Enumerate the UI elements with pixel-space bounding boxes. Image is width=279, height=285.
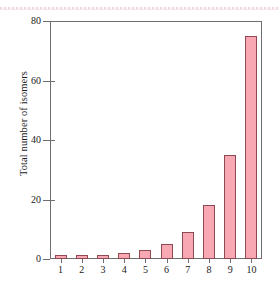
x-axis-tick-mark — [145, 259, 146, 263]
y-axis-tick-mark — [43, 21, 50, 22]
y-axis-tick-mark — [43, 81, 50, 82]
y-axis-tick-mark-inner — [50, 200, 55, 201]
bar — [182, 232, 194, 259]
y-axis-label: Total number of isomers — [0, 0, 24, 250]
bar — [161, 244, 173, 259]
x-axis-tick-mark — [82, 259, 83, 263]
x-axis-tick-mark — [167, 259, 168, 263]
y-axis-tick-label: 40 — [0, 135, 41, 145]
y-axis-tick-mark — [43, 259, 50, 260]
bar — [203, 205, 215, 259]
x-axis-tick-mark — [61, 259, 62, 263]
bar — [97, 255, 109, 259]
bar — [55, 255, 67, 259]
x-axis-tick-mark — [124, 259, 125, 263]
y-axis-tick-mark-inner — [50, 81, 55, 82]
bar — [118, 253, 130, 259]
x-axis-tick-mark — [230, 259, 231, 263]
isomer-bar-chart-figure: Total number of isomers 020406080 123456… — [0, 0, 279, 285]
bar — [245, 36, 257, 259]
y-axis-tick-label: 0 — [0, 254, 41, 264]
bar — [76, 255, 88, 259]
y-axis-tick-label: 60 — [0, 76, 41, 86]
y-axis-tick-mark — [43, 140, 50, 141]
x-axis-tick-label: 10 — [239, 264, 263, 276]
y-axis-tick-label: 80 — [0, 16, 41, 26]
y-axis-tick-mark-inner — [50, 140, 55, 141]
bar — [224, 155, 236, 259]
x-axis-tick-mark — [209, 259, 210, 263]
x-axis-tick-mark — [103, 259, 104, 263]
y-axis-tick-label: 20 — [0, 195, 41, 205]
x-axis-tick-mark — [188, 259, 189, 263]
bar — [139, 250, 151, 259]
y-axis-tick-mark — [43, 200, 50, 201]
x-axis-tick-mark — [251, 259, 252, 263]
